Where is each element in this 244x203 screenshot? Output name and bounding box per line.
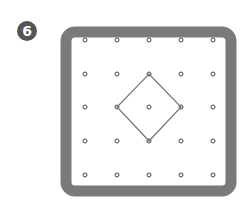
peg bbox=[83, 105, 87, 109]
peg bbox=[115, 173, 119, 177]
peg bbox=[83, 173, 87, 177]
peg bbox=[83, 38, 87, 42]
peg bbox=[179, 139, 183, 143]
peg bbox=[83, 72, 87, 76]
peg bbox=[211, 38, 215, 42]
peg bbox=[115, 72, 119, 76]
peg bbox=[147, 173, 151, 177]
peg bbox=[179, 72, 183, 76]
peg bbox=[83, 139, 87, 143]
peg bbox=[211, 72, 215, 76]
geoboard bbox=[0, 0, 244, 203]
peg bbox=[115, 38, 119, 42]
peg bbox=[115, 139, 119, 143]
peg-grid bbox=[83, 38, 215, 177]
peg bbox=[211, 173, 215, 177]
peg bbox=[179, 173, 183, 177]
peg bbox=[211, 139, 215, 143]
geoboard-frame bbox=[66, 32, 231, 191]
peg bbox=[179, 38, 183, 42]
peg bbox=[147, 105, 151, 109]
peg bbox=[211, 105, 215, 109]
peg bbox=[147, 38, 151, 42]
